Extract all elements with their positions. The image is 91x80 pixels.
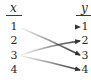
arrow-3-to-2 — [21, 41, 80, 55]
arrow-3-to-4 — [21, 56, 80, 70]
mapping-diagram: x y 1 2 3 4 1 2 3 4 — [0, 0, 91, 80]
arrow-1-to-3 — [21, 28, 80, 55]
mapping-arrows — [0, 0, 91, 80]
